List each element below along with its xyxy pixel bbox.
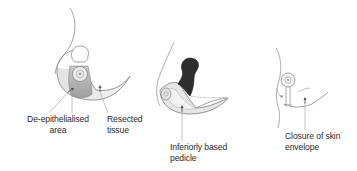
label-line: Inferiorly based (170, 142, 227, 153)
label-line: Resected (107, 114, 143, 125)
breast-outline (57, 68, 130, 100)
panel-1-illustration (50, 8, 130, 113)
label-line: area (10, 125, 106, 136)
closure-of-skin-envelope-label: Closure of skin envelope (285, 131, 340, 153)
panel-2-illustration (157, 42, 228, 141)
chest-wall-line (276, 48, 281, 128)
leader-line-de-epithelialised (50, 90, 70, 112)
label-line: Closure of skin (285, 131, 340, 142)
breast-reduction-diagram: De-epithelialised area Resected tissue I… (0, 0, 357, 171)
label-line: envelope (285, 142, 340, 153)
label-line: tissue (107, 125, 143, 136)
label-line: De-epithelialised (10, 114, 106, 125)
inferiorly-based-pedicle-label: Inferiorly based pedicle (170, 142, 227, 164)
panel-3-illustration (276, 48, 328, 130)
de-epithelialised-area-label: De-epithelialised area (10, 114, 106, 136)
label-line: pedicle (170, 153, 227, 164)
resected-tissue-label: Resected tissue (107, 114, 143, 136)
nipple-areola (161, 88, 171, 100)
